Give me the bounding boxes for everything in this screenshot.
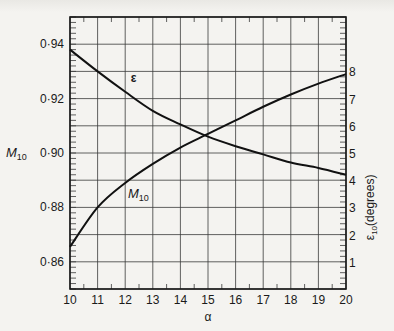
y-right-tick-label: 3 [349, 201, 356, 215]
x-tick-label: 17 [257, 293, 271, 307]
y-right-axis-label: ε10(degrees) [363, 175, 379, 241]
y-right-tick-label: 1 [349, 256, 356, 270]
grid-lines [70, 17, 346, 289]
m10-curve-label: M10 [128, 186, 149, 203]
x-axis-label: α [205, 310, 212, 324]
chart: 10111213141516171819200·860·880·900·920·… [0, 0, 394, 331]
y-left-tick-label: 0·88 [40, 200, 64, 214]
x-tick-label: 20 [339, 293, 353, 307]
y-left-tick-label: 0·90 [40, 146, 64, 160]
y-right-tick-label: 8 [349, 65, 356, 79]
y-left-tick-label: 0·94 [40, 37, 64, 51]
x-tick-label: 13 [146, 293, 160, 307]
y-right-tick-label: 2 [349, 229, 356, 243]
y-right-tick-label: 4 [349, 174, 356, 188]
x-tick-label: 10 [63, 293, 77, 307]
x-tick-label: 18 [284, 293, 298, 307]
epsilon-curve-label: ε [131, 71, 137, 85]
y-right-tick-label: 7 [349, 93, 356, 107]
x-tick-label: 12 [119, 293, 133, 307]
x-tick-label: 11 [91, 293, 104, 307]
y-right-tick-label: 6 [349, 120, 356, 134]
x-tick-label: 15 [201, 293, 215, 307]
x-tick-label: 19 [312, 293, 326, 307]
y-left-tick-label: 0·86 [40, 255, 64, 269]
y-left-tick-label: 0·92 [40, 92, 64, 106]
y-left-axis-label: M10 [6, 145, 27, 162]
x-tick-label: 14 [174, 293, 188, 307]
x-tick-label: 16 [229, 293, 243, 307]
y-right-tick-label: 5 [349, 147, 356, 161]
